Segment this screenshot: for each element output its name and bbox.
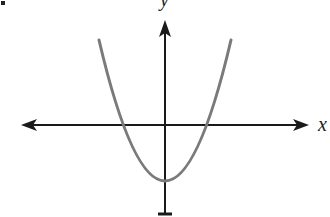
bullet-mark [1, 1, 5, 5]
parabola-graph: y x [0, 0, 330, 217]
x-axis-label: x [317, 113, 327, 135]
y-axis-label: y [158, 0, 169, 11]
